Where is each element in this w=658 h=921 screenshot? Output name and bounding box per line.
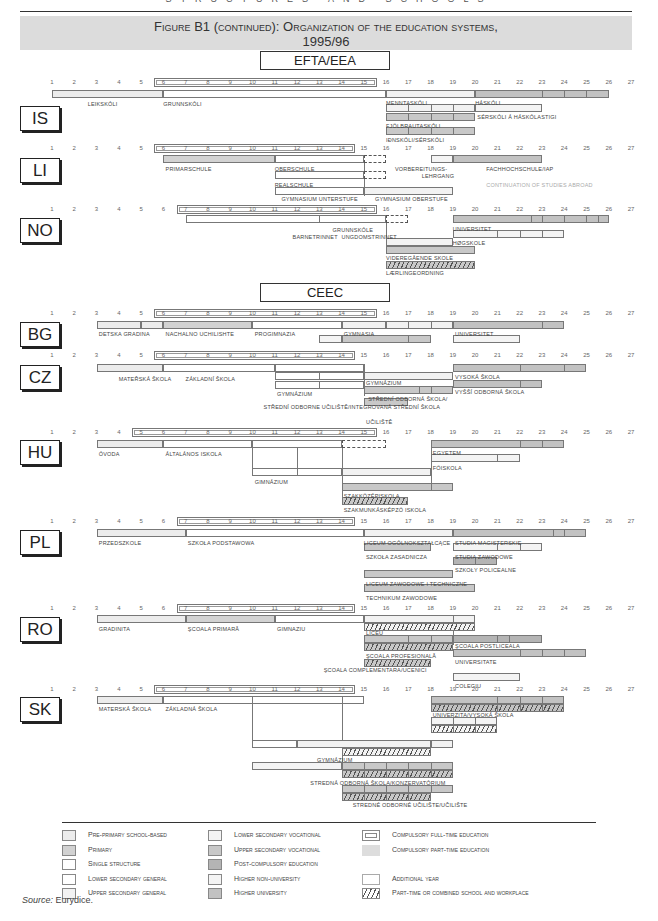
school-type-label: Progimnazia [255, 331, 296, 337]
school-type-label: Fjölbrautaskóli [386, 123, 441, 129]
age-tick: 27 [624, 518, 638, 524]
age-tick: 11 [268, 429, 282, 435]
age-tick: 10 [245, 206, 259, 212]
education-stage-bar [252, 440, 341, 448]
country-code-no: NO [20, 218, 60, 243]
education-stage-bar [364, 372, 453, 380]
legend-label: Compulsory full-time education [392, 831, 488, 838]
age-tick: 16 [379, 310, 393, 316]
age-tick: 12 [290, 686, 304, 692]
school-type-label: Studia zawodowe [455, 554, 513, 560]
age-tick: 17 [401, 429, 415, 435]
legend-label: Pre-primary school-based [88, 831, 167, 838]
age-tick: 17 [401, 310, 415, 316]
age-tick: 20 [468, 206, 482, 212]
school-type-label: Střední odborná škola/ [368, 396, 447, 402]
school-type-label: Oberschule [275, 166, 315, 172]
age-tick: 14 [335, 352, 349, 358]
school-type-label: Technikum zawodowe [366, 595, 437, 601]
school-type-label: Szakmunkásképző iskola [344, 507, 426, 513]
education-stage-bar [297, 740, 431, 748]
age-tick: 14 [335, 429, 349, 435]
age-tick: 1 [45, 145, 59, 151]
year-divider [475, 718, 476, 724]
age-tick: 19 [446, 686, 460, 692]
year-divider [364, 763, 365, 769]
age-tick: 13 [312, 518, 326, 524]
age-tick: 24 [557, 429, 571, 435]
school-type-label: Szkoły policealne [455, 567, 516, 573]
age-tick: 10 [245, 352, 259, 358]
age-tick: 21 [490, 206, 504, 212]
school-type-label: Realschule [275, 182, 314, 188]
year-divider [497, 697, 498, 703]
age-tick: 9 [223, 686, 237, 692]
school-type-label: Egyetem [433, 450, 461, 456]
year-divider [408, 794, 409, 800]
age-tick: 12 [290, 605, 304, 611]
year-divider [553, 530, 554, 536]
legend-label: Primary [88, 846, 112, 853]
age-tick: 6 [156, 145, 170, 151]
year-divider [542, 322, 543, 328]
age-tick: 23 [535, 145, 549, 151]
age-tick: 22 [513, 206, 527, 212]
age-tick: 16 [379, 429, 393, 435]
school-type-label: Főiskola [433, 465, 462, 471]
age-tick: 25 [579, 145, 593, 151]
age-tick: 19 [446, 310, 460, 316]
year-divider [408, 771, 409, 777]
age-axis: 1234567891011121314151617181920212223242… [0, 145, 658, 153]
age-tick: 22 [513, 352, 527, 358]
school-type-label: Mateřská škola [119, 376, 172, 382]
age-tick: 12 [290, 79, 304, 85]
header-rule [20, 11, 632, 12]
age-tick: 22 [513, 686, 527, 692]
school-type-label: Általános iskola [166, 451, 222, 457]
school-type-label: Iðnskóli/Sérskóli [386, 137, 444, 143]
year-divider [520, 697, 521, 703]
legend-label: Higher university [234, 889, 287, 896]
age-tick: 5 [134, 145, 148, 151]
age-tick: 7 [179, 352, 193, 358]
education-stage-bar [52, 90, 163, 98]
age-tick: 4 [112, 79, 126, 85]
year-divider [497, 455, 498, 461]
age-tick: 5 [134, 79, 148, 85]
legend-swatch [208, 830, 222, 841]
education-stage-bar [386, 321, 453, 329]
age-tick: 22 [513, 310, 527, 316]
age-tick: 26 [602, 605, 616, 611]
age-tick: 9 [223, 310, 237, 316]
education-stage-bar [97, 529, 186, 537]
age-tick: 11 [268, 206, 282, 212]
legend-swatch [208, 888, 222, 899]
legend-swatch [362, 888, 380, 899]
year-divider [431, 484, 432, 490]
legend-label: Post-compulsory education [234, 860, 318, 867]
age-tick: 18 [424, 352, 438, 358]
age-tick: 18 [424, 206, 438, 212]
age-tick: 21 [490, 518, 504, 524]
year-divider [542, 231, 543, 237]
age-tick: 2 [67, 79, 81, 85]
age-tick: 27 [624, 310, 638, 316]
legend-label: Lower secondary general [88, 875, 167, 882]
education-stage-bar [453, 155, 542, 163]
figure-title-line2: 1995/96 [20, 34, 632, 49]
age-tick: 8 [201, 352, 215, 358]
age-tick: 6 [156, 686, 170, 692]
school-type-label: Primarschule [166, 166, 212, 172]
age-tick: 9 [223, 352, 237, 358]
education-stage-bar [386, 113, 475, 121]
year-divider [408, 114, 409, 120]
legend-label: Compulsory part-time education [392, 846, 489, 853]
age-tick: 1 [45, 352, 59, 358]
education-stage-bar [453, 635, 542, 643]
age-tick: 14 [335, 206, 349, 212]
age-tick: 25 [579, 429, 593, 435]
age-tick: 18 [424, 686, 438, 692]
education-stage-bar [431, 704, 565, 712]
legend-label: Higher non-university [234, 875, 300, 882]
age-tick: 15 [357, 352, 371, 358]
